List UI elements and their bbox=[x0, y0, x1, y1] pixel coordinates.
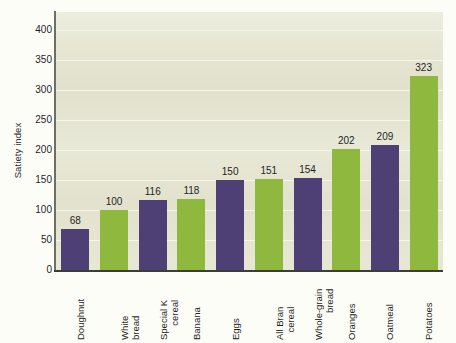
bar-value-label: 151 bbox=[261, 166, 278, 176]
gridline bbox=[56, 90, 443, 91]
bar[interactable]: 118 bbox=[177, 199, 205, 270]
x-tick-label: Potatoes bbox=[424, 303, 435, 341]
gridline bbox=[56, 30, 443, 31]
gridline bbox=[56, 60, 443, 61]
gridline bbox=[56, 120, 443, 121]
y-tick-label: 350 bbox=[26, 55, 52, 65]
bar-value-label: 100 bbox=[106, 197, 123, 207]
bar-value-label: 116 bbox=[145, 187, 161, 197]
x-tick-label: Whole-grainbread bbox=[314, 289, 335, 340]
bar[interactable]: 323 bbox=[410, 76, 438, 270]
x-tick-label: Oatmeal bbox=[385, 304, 396, 340]
x-axis-line bbox=[54, 270, 443, 272]
y-tick-label: 200 bbox=[26, 145, 52, 155]
bar-value-label: 154 bbox=[299, 165, 316, 175]
plot-area: 68100116118150151154202209323 bbox=[56, 12, 443, 270]
x-axis-tick-labels: DoughnutWhitebreadSpecial KcerealBananaE… bbox=[56, 274, 443, 343]
bar[interactable]: 150 bbox=[216, 180, 244, 270]
y-tick-label: 300 bbox=[26, 85, 52, 95]
x-tick-label: All Brancereal bbox=[275, 307, 296, 340]
x-tick-label: Whitebread bbox=[120, 316, 141, 340]
y-axis-title-text: Satiety index bbox=[13, 122, 24, 178]
bar-value-label: 323 bbox=[415, 63, 432, 73]
y-axis-title: Satiety index bbox=[11, 95, 25, 205]
bar[interactable]: 151 bbox=[255, 179, 283, 270]
bar[interactable]: 68 bbox=[61, 229, 89, 270]
y-tick-label: 0 bbox=[26, 265, 52, 275]
bar[interactable]: 100 bbox=[100, 210, 128, 270]
y-axis-line bbox=[54, 11, 56, 271]
y-tick-label: 250 bbox=[26, 115, 52, 125]
bar[interactable]: 116 bbox=[139, 200, 167, 270]
bar-chart-figure: Satiety index 050100150200250300350400 6… bbox=[0, 0, 456, 343]
bar-value-label: 118 bbox=[183, 186, 199, 196]
bar-value-label: 209 bbox=[377, 132, 394, 142]
x-tick-label: Banana bbox=[192, 307, 203, 340]
bar-value-label: 150 bbox=[222, 167, 239, 177]
bar-value-label: 68 bbox=[70, 216, 81, 226]
x-tick-label: Doughnut bbox=[76, 299, 87, 340]
bar[interactable]: 209 bbox=[371, 145, 399, 270]
x-tick-label: Oranges bbox=[347, 304, 358, 340]
y-axis-tick-labels: 050100150200250300350400 bbox=[26, 12, 52, 270]
y-tick-label: 50 bbox=[26, 235, 52, 245]
y-tick-label: 100 bbox=[26, 205, 52, 215]
bar[interactable]: 154 bbox=[294, 178, 322, 270]
x-tick-label: Eggs bbox=[231, 318, 242, 340]
bar[interactable]: 202 bbox=[332, 149, 360, 270]
y-tick-label: 150 bbox=[26, 175, 52, 185]
bar-value-label: 202 bbox=[338, 136, 355, 146]
y-tick-label: 400 bbox=[26, 25, 52, 35]
x-tick-label: Special Kcereal bbox=[159, 300, 180, 340]
